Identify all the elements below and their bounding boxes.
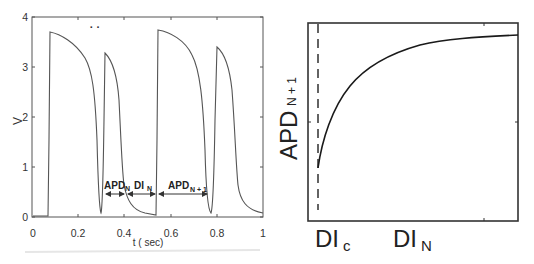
annotation-apd-n1: APD N + 1 (159, 180, 207, 194)
x-tick-0.6: 0.6 (164, 227, 179, 239)
x-tick-0: 0 (30, 227, 36, 239)
svg-text:N + 1: N + 1 (285, 77, 299, 106)
restitution-curve (318, 35, 518, 168)
annotation-di-n: DI N (128, 180, 155, 194)
right-y-label: APD N + 1 (275, 77, 302, 160)
figure-canvas: 4 3 2 1 0 V 0 0.2 0.4 0.6 0.8 1 t ( sec)… (0, 0, 534, 264)
x-tick-0.8: 0.8 (210, 227, 225, 239)
svg-text:APD: APD (275, 111, 302, 160)
x-tick-1: 1 (260, 227, 266, 239)
y-tick-1: 1 (22, 161, 28, 173)
y-tick-4: 4 (22, 11, 28, 23)
svg-text:DI: DI (315, 225, 339, 252)
svg-text:c: c (343, 237, 351, 254)
x-tick-0.2: 0.2 (71, 227, 86, 239)
svg-text:APD: APD (104, 180, 125, 191)
y-tick-0: 0 (22, 211, 28, 223)
svg-text:APD: APD (168, 180, 189, 191)
annotation-apd-n: APD N (104, 180, 130, 194)
xlabel-dic: DI c (315, 225, 351, 254)
svg-text:DI: DI (393, 225, 417, 252)
right-plot: APD N + 1 DI c DI N (275, 23, 518, 254)
left-plot: 4 3 2 1 0 V 0 0.2 0.4 0.6 0.8 1 t ( sec)… (11, 11, 266, 252)
svg-text:N: N (125, 185, 130, 192)
svg-text:DI: DI (134, 180, 144, 191)
y-tick-3: 3 (22, 61, 28, 73)
x-tick-0.4: 0.4 (117, 227, 132, 239)
svg-text:N + 1: N + 1 (190, 186, 207, 193)
svg-text:N: N (421, 237, 432, 254)
svg-text:N: N (147, 185, 152, 192)
left-x-label: t ( sec) (133, 237, 164, 248)
marker-dots: · · (90, 21, 100, 33)
xlabel-din: DI N (393, 225, 432, 254)
left-y-label: V (11, 117, 25, 125)
scan-artifact (25, 250, 260, 252)
right-plot-frame (308, 23, 518, 221)
